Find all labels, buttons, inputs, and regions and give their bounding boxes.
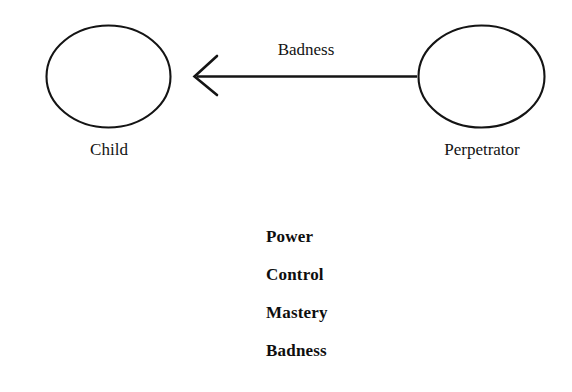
badness-edge-label: Badness bbox=[236, 41, 376, 58]
attribute-item-mastery: Mastery bbox=[266, 304, 466, 342]
attribute-item-control: Control bbox=[266, 266, 466, 304]
attribute-item-badness: Badness bbox=[266, 342, 466, 380]
attribute-list: Power Control Mastery Badness bbox=[266, 228, 466, 380]
child-node-label: Child bbox=[46, 141, 172, 158]
perpetrator-node-label: Perpetrator bbox=[418, 141, 546, 158]
perpetrator-node-ellipse bbox=[419, 26, 545, 128]
attribute-item-power: Power bbox=[266, 228, 466, 266]
diagram-canvas: Child Perpetrator Badness Power Control … bbox=[0, 0, 572, 392]
child-node-ellipse bbox=[47, 26, 171, 128]
